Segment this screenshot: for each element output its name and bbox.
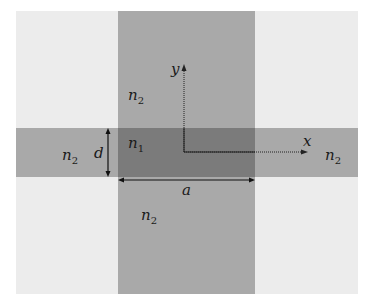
n1-core-label: n1: [128, 136, 144, 154]
d-label: d: [94, 146, 104, 161]
y-axis-label: y: [171, 62, 179, 77]
annotation-overlay: [0, 0, 369, 305]
d-dimension-arrow: [106, 128, 111, 177]
n2-bottom-label: n2: [141, 208, 157, 226]
n2-right-label: n2: [325, 148, 341, 166]
a-label: a: [182, 183, 191, 198]
x-axis-label: x: [303, 134, 311, 149]
n2-top-label: n2: [128, 88, 144, 106]
n2-left-label: n2: [62, 148, 78, 166]
